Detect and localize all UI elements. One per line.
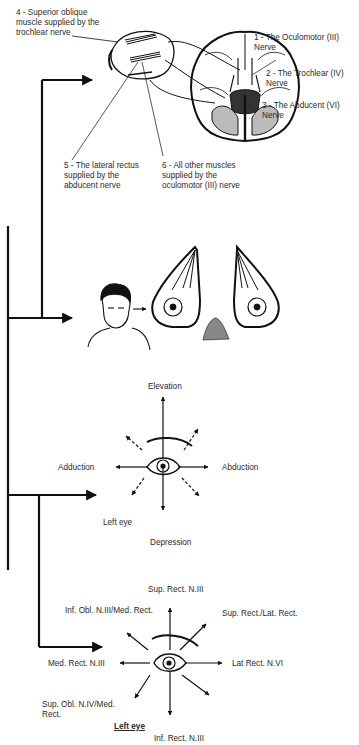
orbit-cross-section-right [152,247,200,327]
label-lat-rect: Lat Rect. N.VI [232,659,283,669]
label-trochlear-nerve: 2 - The Trochlear (IV) Nerve [266,69,344,89]
label-depression: Depression [150,538,191,548]
label-sup-obl: Sup. Obl. N.IV/Med. Rect. [42,700,115,720]
label-med-rect: Med. Rect. N.III [48,659,105,669]
label-superior-oblique: 4 - Superior oblique muscle supplied by … [16,8,99,38]
caption-left-eye-movements: Left eye [103,518,132,528]
label-other-muscles: 6 - All other muscles supplied by the oc… [162,161,240,191]
label-adduction: Adduction [58,463,94,473]
label-abducent-nerve: 3 - The Abducent (VI) Nerve [262,101,340,121]
child-face-illustration [88,284,150,350]
label-inf-obl: Inf. Obl. N.III/Med. Rect. [65,606,153,616]
label-elevation: Elevation [148,382,182,392]
label-inf-rect: Inf. Rect. N.III [154,734,204,744]
eye-movements-diagram [116,397,208,510]
label-lateral-rectus: 5 - The lateral rectus supplied by the a… [64,161,139,191]
caption-left-eye-muscles: Left eye [114,722,145,732]
orbit-muscles-illustration [72,31,240,160]
label-sup-rect-lat-rect: Sup. Rect./Lat. Rect. [222,609,298,619]
label-oculomotor-nerve: 1 - The Oculomotor (III) Nerve [254,33,339,53]
label-abduction: Abduction [222,463,258,473]
orbit-cross-section-left [234,247,279,327]
label-sup-rect: Sup. Rect. N.III [148,585,204,595]
nose-shading [203,318,229,340]
eye-muscle-actions-diagram [120,608,222,715]
